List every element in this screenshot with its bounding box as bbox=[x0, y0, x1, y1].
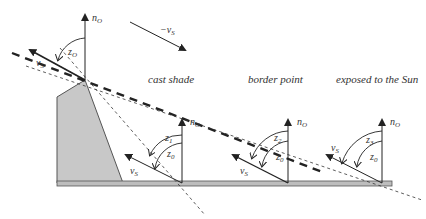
cast-shade-title: cast shade bbox=[148, 73, 194, 85]
exposed-point: nO z3 z0 vS bbox=[327, 116, 400, 183]
border-z2-arc bbox=[252, 131, 288, 158]
border-sun-vector-label: vS bbox=[240, 165, 248, 178]
ground-base bbox=[57, 181, 392, 186]
minus-sun-vector-label: −vS bbox=[160, 24, 175, 37]
border-normal-label: nO bbox=[297, 116, 307, 129]
cast-shade-sun-vector-label: vS bbox=[130, 165, 138, 178]
cast-shade-normal-label: nO bbox=[190, 116, 200, 129]
exposed-normal-label: nO bbox=[390, 116, 400, 129]
border-point: nO z2 z0 vS bbox=[233, 116, 307, 183]
cast-shade-z1-label: z1 bbox=[164, 132, 172, 145]
border-point-title: border point bbox=[248, 73, 304, 85]
exposed-z0-label: z0 bbox=[369, 151, 378, 164]
exposed-title: exposed to the Sun bbox=[336, 73, 419, 85]
exposed-z3-label: z3 bbox=[365, 134, 374, 147]
exposed-sun-vector-label: vS bbox=[331, 142, 339, 155]
cast-shade-point: nO z1 z0 vS bbox=[126, 116, 200, 183]
apex-normal-label: nO bbox=[92, 12, 102, 25]
apex-zenith-label: zO bbox=[67, 46, 77, 59]
apex-sun-vector-label: vS bbox=[36, 57, 44, 70]
cast-shade-z0-label: z0 bbox=[166, 148, 175, 161]
sun-shading-diagram: nO zO vS −vS cast shade border point exp… bbox=[0, 0, 426, 219]
minus-sun-vector-arrow bbox=[130, 22, 185, 50]
